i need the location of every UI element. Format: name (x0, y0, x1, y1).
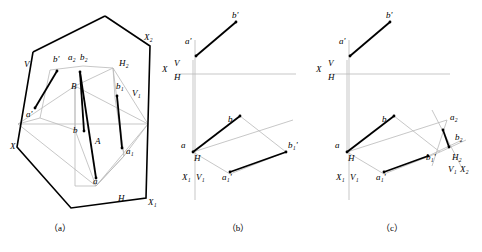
geometry-label: H (173, 72, 181, 82)
panel-caption: （c） (381, 223, 403, 233)
geometry-label: H (327, 72, 335, 82)
geometry-label: X (315, 64, 322, 74)
panel-a-geometry (17, 16, 150, 208)
geometry-label: H (117, 193, 125, 203)
geometry-label: b (228, 114, 233, 124)
geometry-label: V (174, 58, 181, 68)
geometry-label: H (347, 153, 355, 163)
geometry-label: a₂ (68, 52, 76, 62)
geometry-label: a (335, 140, 340, 150)
geometry-label: X₂ (459, 164, 469, 174)
geometry-label: H (193, 153, 201, 163)
diagram-svg: b'a₂b₂X₂H₂VBb₁V₁a'bAa₁XaHX₁b'a'XVHbab₁'X… (0, 0, 482, 252)
panel-caption: （b） (227, 223, 250, 233)
geometry-label: B (71, 81, 77, 91)
geometry-label: V₁ (132, 88, 141, 98)
geometry-label: b₁ (116, 81, 124, 91)
geometry-label: b' (386, 10, 394, 20)
geometry-label: V₁ (350, 172, 359, 182)
geometry-label: b₂ (455, 132, 463, 142)
caption-layer: （a）（b）（c） (49, 223, 403, 233)
panel-b-points (192, 21, 288, 174)
geometry-label: X (161, 64, 168, 74)
label-layer: b'a₂b₂X₂H₂VBb₁V₁a'bAa₁XaHX₁b'a'XVHbab₁'X… (9, 10, 469, 207)
panel-b-geometry (176, 21, 296, 200)
geometry-label: a₂ (450, 112, 458, 122)
geometry-label: b₁' (288, 140, 299, 150)
geometry-label: a' (185, 36, 193, 46)
geometry-label: X₁ (147, 197, 157, 207)
diagram-figure: b'a₂b₂X₂H₂VBb₁V₁a'bAa₁XaHX₁b'a'XVHbab₁'X… (0, 0, 482, 252)
geometry-label: a' (339, 36, 347, 46)
geometry-label: a₁ (126, 146, 134, 156)
geometry-label: A (94, 136, 101, 146)
geometry-label: a₁' (222, 172, 233, 182)
panel-b-segments (193, 22, 286, 172)
geometry-label: X₁ (181, 172, 191, 182)
geometry-label: X₂ (143, 32, 153, 42)
geometry-label: X₁ (335, 172, 345, 182)
geometry-label: b' (232, 10, 240, 20)
geometry-label: b' (53, 54, 61, 64)
geometry-label: H₂ (451, 152, 462, 162)
panel-caption: （a） (49, 223, 71, 233)
geometry-label: b (73, 125, 78, 135)
geometry-label: V (328, 58, 335, 68)
geometry-label: a (93, 176, 98, 186)
panel-c-points (346, 21, 451, 174)
panel-a-segments (35, 71, 122, 178)
geometry-label: V₁ (196, 172, 205, 182)
geometry-label: V₁ (448, 164, 457, 174)
geometry-label: X (9, 141, 16, 151)
geometry-label: a' (26, 109, 34, 119)
geometry-label: b₂ (80, 52, 88, 62)
geometry-label: b (382, 114, 387, 124)
geometry-label: a₁' (376, 172, 387, 182)
panel-c-segments (347, 22, 449, 172)
geometry-label: H₂ (118, 58, 129, 68)
geometry-label: b₁' (426, 152, 437, 162)
geometry-label: a (181, 140, 186, 150)
